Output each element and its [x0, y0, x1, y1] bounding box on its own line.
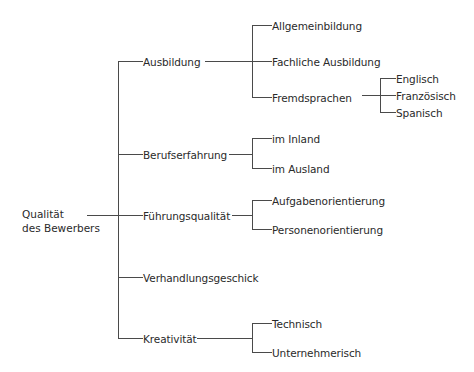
node-fuehrungsqualitaet: Führungsqualität [143, 210, 230, 222]
root-node: Qualität des Bewerbers [22, 207, 100, 235]
node-spanisch: Spanisch [396, 107, 442, 119]
node-im-inland: im Inland [272, 133, 320, 145]
root-label-line1: Qualität [22, 207, 100, 221]
node-englisch: Englisch [396, 73, 439, 85]
node-allgemeinbildung: Allgemeinbildung [272, 20, 362, 32]
root-label-line2: des Bewerbers [22, 221, 100, 235]
node-kreativitaet: Kreativität [143, 333, 197, 345]
node-personenorientierung: Personenorientierung [272, 224, 383, 236]
node-verhandlungsgeschick: Verhandlungsgeschick [143, 272, 259, 284]
node-unternehmerisch: Unternehmerisch [272, 347, 361, 359]
node-franzoesisch: Französisch [396, 90, 456, 102]
node-fremdsprachen: Fremdsprachen [272, 92, 352, 104]
node-technisch: Technisch [272, 318, 322, 330]
node-aufgabenorientierung: Aufgabenorientierung [272, 195, 385, 207]
node-im-ausland: im Ausland [272, 163, 329, 175]
node-ausbildung: Ausbildung [143, 56, 200, 68]
tree-connectors [0, 0, 474, 372]
node-berufserfahrung: Berufserfahrung [143, 149, 227, 161]
node-fachliche-ausbildung: Fachliche Ausbildung [272, 56, 380, 68]
